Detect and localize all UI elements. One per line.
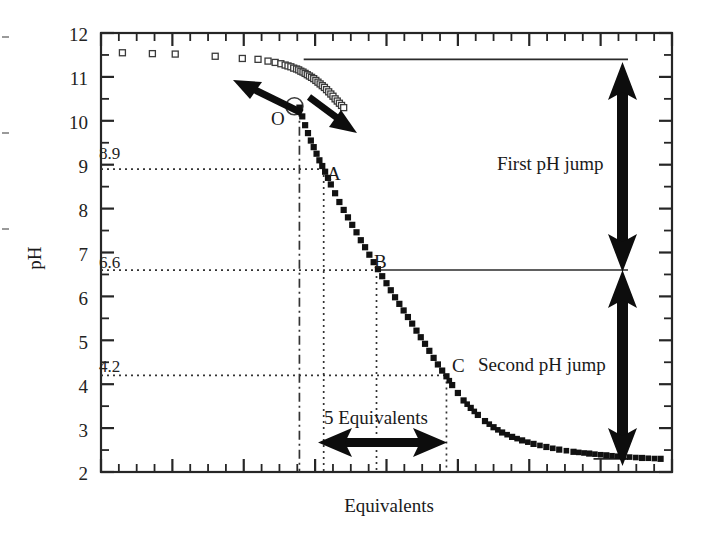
x-axis-title: Equivalents xyxy=(344,495,434,516)
y-tick-label-10: 10 xyxy=(69,112,88,133)
y-axis-title: pH xyxy=(24,246,45,270)
curve-point-label-b: B xyxy=(374,251,387,272)
curve-point-label-a: A xyxy=(327,163,341,184)
y-tick-label-8: 8 xyxy=(79,200,89,221)
y-tick-label-4: 4 xyxy=(79,376,89,397)
curve-point-label-c: C xyxy=(452,355,465,376)
reference-label-4-2: 4.2 xyxy=(99,357,120,376)
y-tick-label-2: 2 xyxy=(79,463,89,484)
five-equivalents-label: 5 Equivalents xyxy=(324,407,428,428)
curve-point-label-o: O xyxy=(271,108,285,129)
y-tick-label-6: 6 xyxy=(79,288,89,309)
y-tick-label-5: 5 xyxy=(79,332,89,353)
y-tick-label-3: 3 xyxy=(79,420,89,441)
second-ph-jump-label: Second pH jump xyxy=(478,354,606,375)
ph-titration-chart: 12 11 10 9 8 7 6 5 4 3 2 8.9 6.6 4.2 O A… xyxy=(0,0,702,534)
y-tick-label-11: 11 xyxy=(70,68,88,89)
y-tick-label-12: 12 xyxy=(69,24,88,45)
reference-label-6-6: 6.6 xyxy=(99,253,120,272)
chart-svg: 12 11 10 9 8 7 6 5 4 3 2 8.9 6.6 4.2 O A… xyxy=(0,0,702,534)
y-tick-label-9: 9 xyxy=(79,156,89,177)
first-ph-jump-label: First pH jump xyxy=(497,153,604,174)
reference-label-8-9: 8.9 xyxy=(99,144,120,163)
y-tick-label-7: 7 xyxy=(79,244,89,265)
